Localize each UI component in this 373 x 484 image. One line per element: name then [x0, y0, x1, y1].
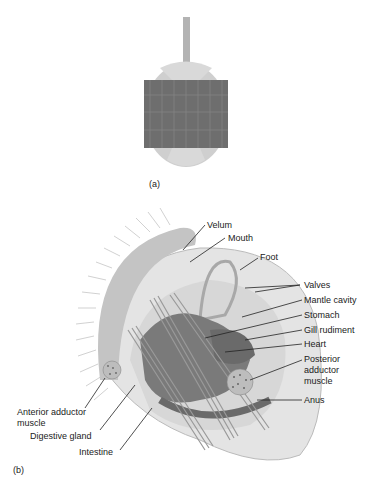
posterior-adductor-shape: [227, 369, 253, 395]
anterior-adductor-shape: [103, 361, 121, 379]
trochophore-illustration: [144, 17, 228, 167]
diagram-canvas: (a): [0, 0, 373, 484]
label-posterior-adductor-line1: Posterior: [304, 354, 340, 364]
label-foot: Foot: [260, 252, 279, 262]
apical-tuft: [183, 17, 190, 67]
label-posterior-adductor-line2: adductor: [304, 365, 339, 375]
panel-b-label: (b): [13, 465, 24, 475]
label-stomach: Stomach: [304, 310, 340, 320]
label-mantle-cavity: Mantle cavity: [304, 295, 357, 305]
label-valves: Valves: [304, 280, 331, 290]
panel-a-label: (a): [149, 179, 160, 189]
label-intestine: Intestine: [79, 447, 113, 457]
veliger-illustration: [76, 208, 321, 460]
label-mouth: Mouth: [228, 233, 253, 243]
label-digestive-gland: Digestive gland: [30, 431, 92, 441]
label-anterior-adductor-line2: muscle: [17, 418, 46, 428]
label-anus: Anus: [304, 395, 325, 405]
label-posterior-adductor-line3: muscle: [304, 376, 333, 386]
label-anterior-adductor-line1: Anterior adductor: [17, 407, 86, 417]
label-heart: Heart: [304, 339, 327, 349]
label-velum: Velum: [207, 220, 232, 230]
label-gill-rudiment: Gill rudiment: [304, 325, 355, 335]
